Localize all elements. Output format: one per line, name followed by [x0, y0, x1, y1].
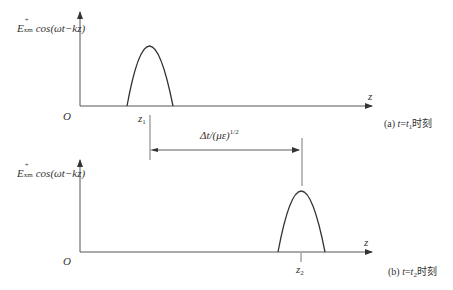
displacement-text: Δt/(με) — [200, 129, 230, 141]
caption-a: (a) t=t1时刻 — [384, 115, 432, 131]
z-axis-label-b: z — [364, 236, 368, 248]
displacement-sup: 1/2 — [230, 128, 239, 136]
panel-b-ylabel: E+xmcos(ωt−kz) — [17, 167, 85, 179]
z2-label: z2 — [296, 263, 304, 277]
ylabel-sub: xm — [24, 171, 33, 179]
ylabel-rest: cos(ωt−kz) — [36, 167, 85, 179]
ylabel-base: E — [17, 22, 24, 34]
panel-a-ylabel: E+xmcos(ωt−kz) — [17, 22, 85, 34]
z-axis-label-a: z — [368, 90, 372, 102]
displacement-label: Δt/(με)1/2 — [200, 128, 239, 141]
caption-a-suffix: 时刻 — [412, 118, 432, 129]
origin-a: O — [63, 110, 71, 122]
origin-b: O — [63, 255, 71, 267]
ylabel-rest: cos(ωt−kz) — [36, 22, 85, 34]
caption-b: (b) t=t2时刻 — [388, 263, 437, 279]
pulse-b — [278, 191, 325, 252]
caption-b-suffix: 时刻 — [417, 266, 437, 277]
z2-sub: 2 — [300, 269, 304, 277]
ylabel-sup: + — [25, 16, 29, 24]
pulse-a — [127, 46, 173, 106]
ylabel-sub: xm — [24, 26, 33, 34]
displacement-arrow — [150, 138, 302, 186]
ylabel-base: E — [17, 167, 24, 179]
z1-sub: 1 — [142, 118, 146, 126]
caption-a-prefix: (a) — [384, 118, 398, 129]
panel-a-axes — [80, 12, 372, 106]
diagram-canvas — [0, 0, 453, 290]
caption-b-prefix: (b) — [388, 266, 402, 277]
ylabel-sup: + — [25, 161, 29, 169]
z1-label: z1 — [138, 112, 146, 126]
panel-b-axes — [80, 160, 372, 252]
